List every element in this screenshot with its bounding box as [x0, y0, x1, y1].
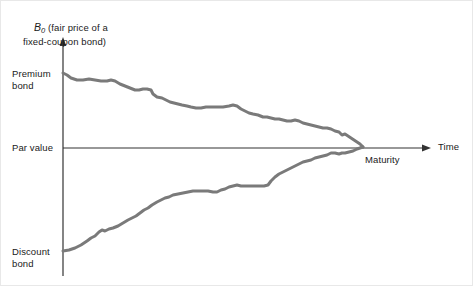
y-axis-label: B0 (fair price of afixed-coupon bond) — [23, 10, 108, 59]
x-axis — [63, 145, 431, 152]
premium-bond-curve — [63, 73, 363, 147]
bond-price-convergence-figure: B0 (fair price of afixed-coupon bond) Pr… — [0, 0, 473, 286]
discount-bond-label: Discount bond — [12, 246, 50, 269]
arrow-right-icon — [422, 145, 431, 152]
premium-bond-label: Premium bond — [12, 68, 51, 91]
discount-bond-curve — [63, 147, 363, 251]
maturity-label: Maturity — [365, 154, 400, 166]
y-axis-symbol: B — [34, 21, 41, 33]
y-axis-label-line1: (fair price of a — [45, 22, 107, 33]
par-value-label: Par value — [12, 142, 53, 154]
y-axis-label-line2: fixed-coupon bond) — [23, 36, 106, 47]
x-axis-label: Time — [438, 141, 459, 153]
